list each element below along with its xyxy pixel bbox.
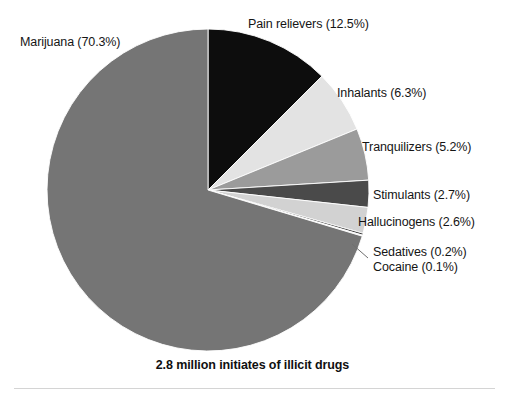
chart-caption: 2.8 million initiates of illicit drugs	[0, 358, 505, 372]
slice-label-inhalants: Inhalants (6.3%)	[337, 86, 426, 101]
slice-label-marijuana: Marijuana (70.3%)	[20, 35, 120, 50]
slice-label-sedatives: Sedatives (0.2%)	[373, 245, 467, 260]
slice-label-hallucinogens: Hallucinogens (2.6%)	[358, 215, 475, 230]
bottom-divider	[14, 388, 495, 389]
pie-slice-group	[47, 29, 369, 351]
slice-label-stimulants: Stimulants (2.7%)	[373, 188, 470, 203]
pie-chart-figure: Marijuana (70.3%) Pain relievers (12.5%)…	[0, 0, 505, 397]
slice-label-cocaine: Cocaine (0.1%)	[373, 260, 458, 275]
slice-label-tranquilizers: Tranquilizers (5.2%)	[362, 140, 471, 155]
slice-label-pain-relievers: Pain relievers (12.5%)	[248, 17, 369, 32]
